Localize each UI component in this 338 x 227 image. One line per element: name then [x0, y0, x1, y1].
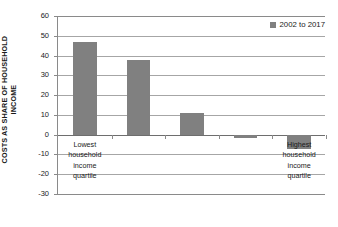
- y-axis-title: COSTS AS SHARE OF HOUSEHOLD INCOME: [0, 0, 20, 200]
- category-label-line: Highest: [259, 140, 338, 151]
- category-label-line: household: [45, 150, 125, 161]
- category-label: Highesthouseholdincomequartile: [259, 140, 338, 182]
- gridline: [58, 194, 325, 195]
- category-label-line: quartile: [259, 171, 338, 182]
- bar: [180, 113, 204, 134]
- y-axis-tick-labels: 6050403020100-10-20-30: [20, 0, 53, 227]
- category-label-line: Lowest: [45, 140, 125, 151]
- plot-area: LowesthouseholdincomequartileHighesthous…: [57, 16, 325, 194]
- y-axis-title-line-1: COSTS AS SHARE OF HOUSEHOLD: [0, 36, 9, 164]
- y-axis-tick-mark: [54, 194, 58, 195]
- y-axis-tick-label: 10: [41, 111, 49, 119]
- y-axis-tick-label: 50: [41, 32, 49, 40]
- category-label: Lowesthouseholdincomequartile: [45, 140, 125, 182]
- y-axis-tick-label: 30: [41, 71, 49, 79]
- category-label-line: quartile: [45, 171, 125, 182]
- y-axis-tick-label: 0: [45, 131, 49, 139]
- y-axis-tick-label: 60: [41, 12, 49, 20]
- legend-label: 2002 to 2017: [279, 21, 325, 29]
- bar-chart: COSTS AS SHARE OF HOUSEHOLD INCOME 60504…: [0, 0, 338, 227]
- category-label-line: income: [259, 161, 338, 172]
- y-axis-tick-label: 40: [41, 52, 49, 60]
- legend: 2002 to 2017: [270, 21, 325, 29]
- bar: [127, 60, 151, 135]
- y-axis-tick-label: -30: [38, 190, 49, 198]
- legend-swatch-icon: [270, 22, 276, 28]
- bar: [73, 42, 97, 135]
- category-label-line: income: [45, 161, 125, 172]
- y-axis-title-line-2: INCOME: [10, 36, 19, 164]
- x-axis-tick-mark: [326, 135, 327, 139]
- category-label-line: household: [259, 150, 338, 161]
- bar: [234, 135, 258, 138]
- y-axis-tick-label: 20: [41, 91, 49, 99]
